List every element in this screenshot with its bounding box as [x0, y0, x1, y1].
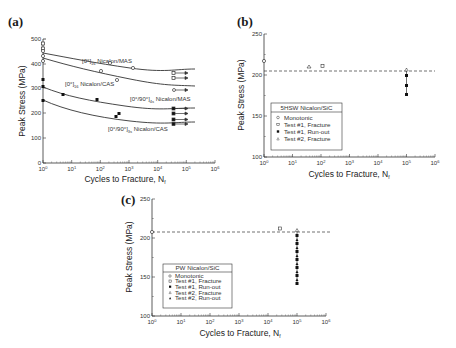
panel-b-chart: 250 200 150 100 100 101 102 103 104 105 … [236, 31, 440, 180]
svg-text:106: 106 [322, 318, 332, 326]
panel-b-ytick: 200 [252, 72, 263, 78]
svg-text:104: 104 [153, 165, 163, 173]
panel-c-ytick: 150 [140, 274, 151, 280]
panel-c-legend-title: PW Nicalon/SiC [175, 264, 220, 271]
svg-text:100: 100 [148, 318, 158, 326]
svg-text:106: 106 [431, 159, 441, 167]
svg-text:105: 105 [402, 159, 412, 167]
panel-b-ytick: 150 [252, 113, 263, 119]
panel-c-monotonic-marker [150, 230, 153, 233]
svg-text:100: 100 [39, 165, 49, 173]
svg-text:104: 104 [264, 318, 274, 326]
panel-b-y-label: Peak Stress (MPa) [236, 59, 246, 130]
curve-label-0-90-3s-cas: [0°/90°]3s Nicalon/CAS [108, 126, 168, 134]
svg-text:103: 103 [345, 159, 355, 167]
legend-item: Test #2, Fracture [284, 135, 331, 142]
figure-canvas: 0 100 200 300 400 500 100 101 102 103 10… [0, 0, 456, 348]
panel-b-runout-markers [405, 68, 408, 96]
legend-item: Test #1, Run-out [284, 128, 330, 135]
panel-a-y-label: Peak Stress (MPa) [17, 65, 27, 136]
panel-b-monotonic-marker [262, 59, 265, 62]
panel-c-xtick-labels: 100 101 102 103 104 105 106 [148, 318, 332, 326]
panel-b-y-ticks [264, 34, 267, 157]
panel-c-x-label: Cycles to Fracture, Nf [199, 328, 281, 339]
panel-c-chart: 250 200 150 100 100 101 102 103 104 105 … [124, 196, 331, 339]
curve-label-0-90-4s-mas: [0°/90°]4s Nicalon/MAS [130, 96, 190, 104]
panel-c-ytick: 200 [140, 235, 151, 241]
panel-b-legend-title: 5HSW Nicalon/SiC [281, 104, 333, 111]
svg-text:102: 102 [317, 159, 327, 167]
panel-b-xtick-labels: 100 101 102 103 104 105 106 [260, 159, 441, 167]
panel-c-ytick: 250 [140, 196, 151, 202]
svg-text:101: 101 [177, 318, 187, 326]
svg-text:105: 105 [293, 318, 303, 326]
panel-c-y-label: Peak Stress (MPa) [124, 221, 134, 292]
svg-text:103: 103 [125, 165, 135, 173]
svg-text:103: 103 [235, 318, 245, 326]
panel-a-ytick: 300 [31, 85, 42, 91]
panel-a-ytick: 200 [31, 110, 42, 116]
panel-a-xtick-labels: 100 101 102 103 104 105 106 [39, 165, 221, 173]
svg-text:102: 102 [96, 165, 106, 173]
panel-b-ytick: 250 [252, 31, 263, 37]
panel-c-runout-markers [295, 229, 298, 286]
svg-text:101: 101 [67, 165, 77, 173]
legend-item: Test #2, Run-out [175, 294, 221, 301]
panel-a-ytick: 400 [31, 61, 42, 67]
panel-a-ytick: 500 [31, 36, 42, 42]
panel-b-x-label: Cycles to Fracture, Nf [308, 169, 390, 180]
panel-c-y-ticks [152, 199, 155, 316]
svg-text:101: 101 [288, 159, 298, 167]
svg-text:104: 104 [374, 159, 384, 167]
legend-item: Test #1, Fracture [284, 121, 331, 128]
panel-b-legend: 5HSW Nicalon/SiC Monotonic Test #1, Frac… [271, 103, 342, 150]
svg-text:102: 102 [206, 318, 216, 326]
panel-a-x-label: Cycles to Fracture, Nf [84, 174, 166, 185]
svg-text:105: 105 [182, 165, 192, 173]
curve-label-0-16-cas: [0°]16 Nicalon/CAS [65, 81, 114, 89]
legend-item: Monotonic [284, 114, 313, 121]
panel-b-test1-fracture-marker [321, 65, 324, 68]
panel-a-chart: 0 100 200 300 400 500 100 101 102 103 10… [17, 36, 220, 185]
panel-c-test1-fracture-marker [279, 227, 282, 230]
svg-text:100: 100 [260, 159, 270, 167]
svg-text:106: 106 [211, 165, 221, 173]
panel-b-test2-fracture-marker [307, 65, 311, 68]
panel-c-legend: PW Nicalon/SiC Monotonic Test #1, Fractu… [163, 264, 232, 308]
panel-a-ytick: 100 [31, 135, 42, 141]
